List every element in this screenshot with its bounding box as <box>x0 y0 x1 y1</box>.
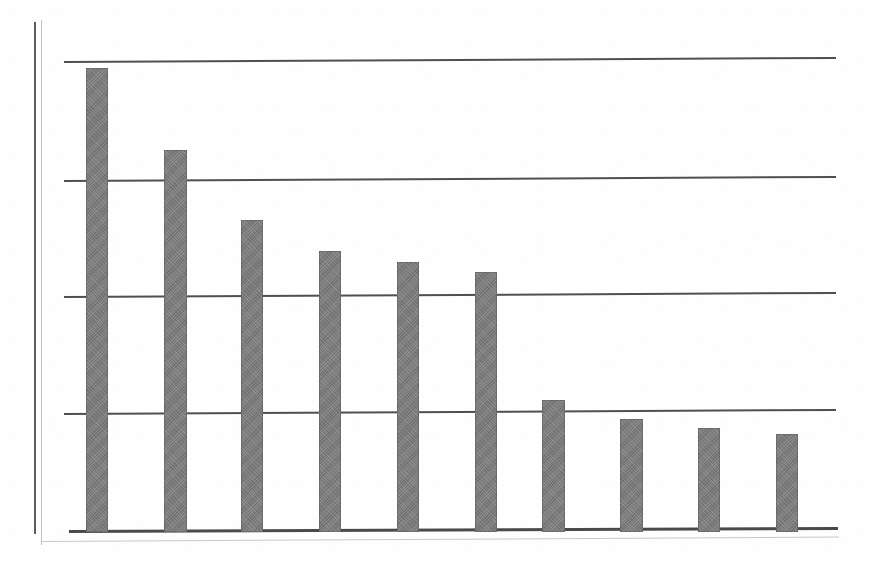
bar-3[interactable] <box>241 220 263 532</box>
bar-9[interactable] <box>698 428 720 532</box>
chart-data-readout: 1: 99, 2: 81, 3: 66, 4: 60, 5: 57, 6: 55… <box>0 0 1 1</box>
bar-1[interactable] <box>86 68 108 532</box>
paper-texture-overlay <box>0 0 871 578</box>
bar-chart-figure: 1: 99, 2: 81, 3: 66, 4: 60, 5: 57, 6: 55… <box>0 0 871 578</box>
bar-2[interactable] <box>164 150 187 532</box>
bar-4[interactable] <box>319 251 341 532</box>
y-axis-line <box>34 22 36 534</box>
figure-frame-left-edge <box>41 20 42 545</box>
gridline-100 <box>64 57 836 63</box>
figure-frame-bottom-edge <box>41 537 839 542</box>
bar-7[interactable] <box>542 400 565 532</box>
bar-10[interactable] <box>776 434 798 532</box>
bar-5[interactable] <box>397 262 419 532</box>
bar-6[interactable] <box>475 272 497 532</box>
bar-8[interactable] <box>620 419 643 532</box>
